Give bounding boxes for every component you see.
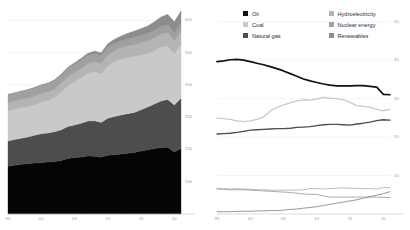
legend-swatch-gas-icon <box>243 33 248 38</box>
y-tick-label: 100 <box>185 180 192 184</box>
y-tick-label: 10 <box>394 174 399 178</box>
legend-label-renewables: Renewables <box>338 33 369 39</box>
y-tick-label: 400 <box>185 83 192 87</box>
legend-label-oil: Oil <box>252 11 259 17</box>
legend-item-coal[interactable]: Coal <box>243 19 323 30</box>
x-tick-label: 10 <box>311 217 323 221</box>
stacked-area-svg <box>0 0 205 230</box>
figure-root: 100200300400500600 950005101520 10203040… <box>0 0 410 230</box>
legend-swatch-hydro-icon <box>329 11 334 16</box>
y-tick-label: 600 <box>185 18 192 22</box>
legend-label-hydro: Hydroelectricity <box>338 11 376 17</box>
y-tick-label: 300 <box>185 115 192 119</box>
x-tick-label: 95 <box>211 217 223 221</box>
legend-item-nuclear[interactable]: Nuclear energy <box>329 19 409 30</box>
x-tick-label: 00 <box>244 217 256 221</box>
x-tick-label: 10 <box>102 217 114 221</box>
x-tick-label: 20 <box>168 217 180 221</box>
line-series-renewables <box>217 192 390 212</box>
legend-swatch-oil-icon <box>243 11 248 16</box>
y-tick-label: 200 <box>185 147 192 151</box>
legend-label-nuclear: Nuclear energy <box>338 22 376 28</box>
legend-swatch-coal-icon <box>243 22 248 27</box>
line-series-nuclear-energy <box>217 189 390 197</box>
line-series-coal <box>217 97 390 121</box>
y-tick-label: 20 <box>394 135 399 139</box>
x-tick-label: 00 <box>35 217 47 221</box>
legend-label-coal: Coal <box>252 22 264 28</box>
chart-legend: OilHydroelectricityCoalNuclear energyNat… <box>243 8 408 41</box>
y-tick-label: 30 <box>394 97 399 101</box>
legend-swatch-renewables-icon <box>329 33 334 38</box>
x-tick-label: 05 <box>69 217 81 221</box>
legend-label-gas: Natural gas <box>252 33 281 39</box>
gridlines <box>217 22 390 176</box>
legend-swatch-nuclear-icon <box>329 22 334 27</box>
legend-item-hydro[interactable]: Hydroelectricity <box>329 8 409 19</box>
stacked-area-plot <box>0 0 205 230</box>
x-tick-label: 15 <box>135 217 147 221</box>
x-tick-label: 05 <box>278 217 290 221</box>
y-tick-label: 40 <box>394 58 399 62</box>
line-series-oil <box>217 59 390 94</box>
stacked-area-panel: 100200300400500600 950005101520 <box>0 0 205 230</box>
legend-item-oil[interactable]: Oil <box>243 8 323 19</box>
x-tick-label: 15 <box>344 217 356 221</box>
x-tick-label: 95 <box>2 217 14 221</box>
legend-item-renewables[interactable]: Renewables <box>329 30 409 41</box>
legend-item-gas[interactable]: Natural gas <box>243 30 323 41</box>
x-tick-label: 20 <box>377 217 389 221</box>
y-tick-label: 500 <box>185 51 192 55</box>
line-chart-panel: 1020304050 950005101520 OilHydroelectric… <box>205 0 410 230</box>
